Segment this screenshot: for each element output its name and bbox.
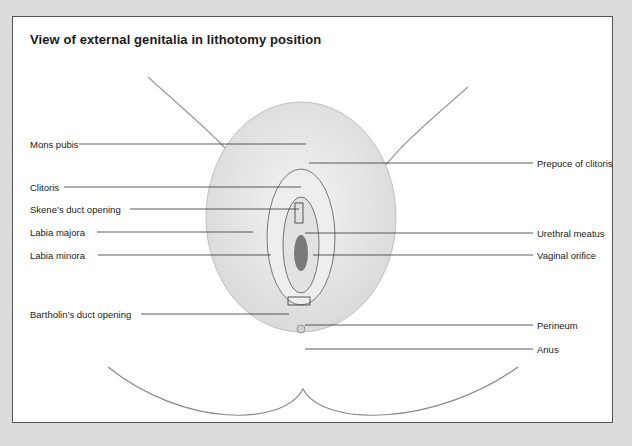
- label-skenes-duct-opening: Skene’s duct opening: [30, 204, 121, 215]
- label-mons-pubis: Mons pubis: [30, 139, 79, 150]
- label-bartholins-duct-opening: Bartholin’s duct opening: [30, 309, 131, 320]
- outline-lower: [108, 367, 518, 415]
- figure-panel: View of external genitalia in lithotomy …: [12, 16, 613, 423]
- label-clitoris: Clitoris: [30, 182, 59, 193]
- label-urethral-meatus: Urethral meatus: [537, 228, 605, 239]
- schematic-illustration: [13, 17, 614, 424]
- label-vaginal-orifice: Vaginal orifice: [537, 250, 596, 261]
- center-opening: [294, 235, 308, 271]
- lower-marker: [297, 325, 305, 333]
- label-anus: Anus: [537, 344, 559, 355]
- label-perineum: Perineum: [537, 320, 578, 331]
- label-labia-minora: Labia minora: [30, 250, 85, 261]
- label-labia-majora: Labia majora: [30, 227, 85, 238]
- label-prepuce-of-clitoris: Prepuce of clitoris: [537, 158, 613, 169]
